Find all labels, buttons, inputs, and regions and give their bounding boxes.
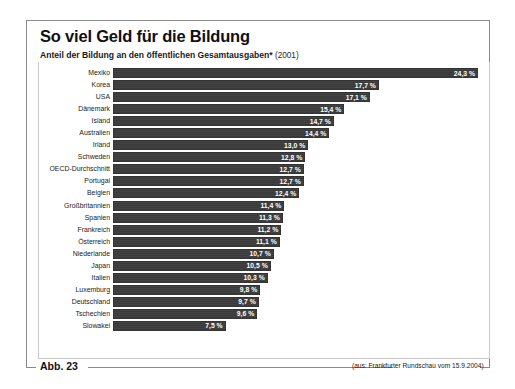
bar-category-label: Frankreich [0,225,110,235]
bar: 11,3 % [113,213,283,223]
bar-value-label: 13,0 % [284,141,305,150]
bar-category-label: Slowakei [0,321,110,331]
bar-value-label: 9,7 % [238,297,255,306]
bar-row: Dänemark15,4 % [38,104,490,116]
bar-row: Australien14,4 % [38,128,490,140]
bar: 24,3 % [113,68,478,78]
bar-value-label: 24,3 % [454,69,475,78]
bar-rows: Mexiko24,3 %Korea17,7 %USA17,1 %Dänemark… [38,68,490,333]
bar-track: 14,4 % [113,128,329,138]
bar-track: 10,5 % [113,261,271,271]
chart-title: So viel Geld für die Bildung [40,27,250,46]
bar-category-label: Australien [0,128,110,138]
bar-row: Slowakei7,5 % [38,321,490,333]
bar-track: 12,8 % [113,152,305,162]
bar: 17,1 % [113,92,370,102]
bar: 7,5 % [113,321,226,331]
bar-value-label: 17,1 % [346,93,367,102]
bar: 11,2 % [113,225,281,235]
chart-subtitle-text: Anteil der Bildung an den öffentlichen G… [40,50,273,60]
bar-track: 17,7 % [113,80,379,90]
bar-value-label: 12,4 % [275,189,296,198]
frame-border-bottom-left [26,367,36,368]
bar-category-label: Korea [0,80,110,90]
bar: 11,4 % [113,201,284,211]
bar-row: Portugal12,7 % [38,176,490,188]
bar-row: Österreich11,1 % [38,237,490,249]
bar: 9,6 % [113,309,257,319]
bar-row: USA17,1 % [38,92,490,104]
bar-value-label: 11,3 % [259,213,280,222]
bar-value-label: 9,8 % [240,285,257,294]
bar-category-label: Italien [0,273,110,283]
bar-value-label: 12,7 % [280,165,301,174]
bar: 9,8 % [113,285,260,295]
bar-value-label: 14,4 % [305,129,326,138]
bar-row: Niederlande10,7 % [38,249,490,261]
bar-value-label: 12,7 % [280,177,301,186]
bar-row: Frankreich11,2 % [38,225,490,237]
figure-number: Abb. 23 [40,360,78,372]
bar-value-label: 10,7 % [250,249,271,258]
bar-track: 11,2 % [113,225,281,235]
bar-value-label: 12,8 % [281,153,302,162]
bar: 10,7 % [113,249,274,259]
bar: 10,5 % [113,261,271,271]
figure-page: So viel Geld für die Bildung Anteil der … [0,0,515,389]
bar-category-label: Niederlande [0,249,110,259]
bar-category-label: Tschechien [0,309,110,319]
bar: 15,4 % [113,104,344,114]
bar-value-label: 10,3 % [244,273,265,282]
bar-category-label: Österreich [0,237,110,247]
bar: 12,8 % [113,152,305,162]
footer-rule [88,367,393,368]
bar: 10,3 % [113,273,268,283]
bar-row: Belgien12,4 % [38,188,490,200]
bar-category-label: Schweden [0,152,110,162]
bar-category-label: Portugal [0,176,110,186]
bar: 12,7 % [113,176,304,186]
bar-track: 9,7 % [113,297,259,307]
bar-category-label: Luxemburg [0,285,110,295]
bar-value-label: 14,7 % [310,117,331,126]
bar-category-label: Belgien [0,188,110,198]
bar-value-label: 7,5 % [205,321,222,330]
bar-track: 10,7 % [113,249,274,259]
chart-subtitle: Anteil der Bildung an den öffentlichen G… [40,50,299,60]
bar-track: 9,6 % [113,309,257,319]
bar: 12,4 % [113,188,299,198]
bar-track: 11,3 % [113,213,283,223]
bar-category-label: Japan [0,261,110,271]
bar-category-label: Deutschland [0,297,110,307]
bar-row: Japan10,5 % [38,261,490,273]
bar-category-label: Irland [0,140,110,150]
bar-category-label: USA [0,92,110,102]
bar-category-label: Spanien [0,213,110,223]
bar-category-label: OECD-Durchschnitt [0,164,110,174]
source-attribution: (aus: Frankfurter Rundschau vom 15.9.200… [352,362,484,369]
bar-value-label: 17,7 % [355,81,376,90]
bar-row: Luxemburg9,8 % [38,285,490,297]
plot-border-bottom [38,358,490,359]
chart-subtitle-year: (2001) [275,51,299,60]
bar: 14,7 % [113,116,334,126]
bar-track: 17,1 % [113,92,370,102]
bar-track: 12,4 % [113,188,299,198]
bar-row: Irland13,0 % [38,140,490,152]
bar-category-label: Mexiko [0,68,110,78]
bar-track: 7,5 % [113,321,226,331]
bar-row: Mexiko24,3 % [38,68,490,80]
bar-track: 24,3 % [113,68,478,78]
bar-track: 11,1 % [113,237,280,247]
bar-value-label: 9,6 % [237,309,254,318]
bar-track: 11,4 % [113,201,284,211]
bar-row: Island14,7 % [38,116,490,128]
bar-track: 12,7 % [113,164,304,174]
bar-track: 14,7 % [113,116,334,126]
bar: 14,4 % [113,128,329,138]
frame-border-top [26,20,490,21]
bar-value-label: 10,5 % [247,261,268,270]
bar-track: 12,7 % [113,176,304,186]
bar-value-label: 11,2 % [257,225,278,234]
bar-row: Schweden12,8 % [38,152,490,164]
